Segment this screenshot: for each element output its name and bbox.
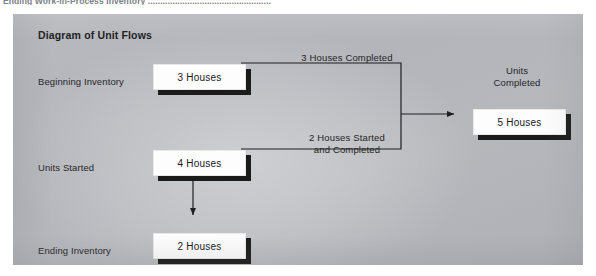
unit-box-beginning-inventory: 3 Houses [153,64,246,90]
flow-label-2-houses-started-and-completed: 2 Houses Started and Completed [262,132,432,156]
row-label-ending-inventory: Ending Inventory [38,245,111,256]
unit-box-value-beginning-inventory: 3 Houses [178,72,222,83]
unit-box-value-units-completed: 5 Houses [498,117,542,128]
unit-box-units-completed: 5 Houses [473,109,566,135]
diagram-panel: Diagram of Unit Flows Beginning Inventor… [13,14,583,265]
unit-box-value-ending-inventory: 2 Houses [178,241,222,252]
units-completed-caption: Units Completed [477,65,557,89]
flow-label-3-houses-completed: 3 Houses Completed [262,52,432,64]
page-title: Diagram of Unit Flows [38,29,152,41]
row-label-beginning-inventory: Beginning Inventory [38,76,124,87]
cutoff-page-caption: Ending Work-in-Process Inventory .......… [3,0,563,5]
row-label-units-started: Units Started [38,162,94,173]
unit-box-value-units-started: 4 Houses [178,158,222,169]
connector-beginning-to-merge [241,63,401,114]
unit-box-ending-inventory: 2 Houses [153,233,246,259]
unit-box-units-started: 4 Houses [153,150,246,176]
